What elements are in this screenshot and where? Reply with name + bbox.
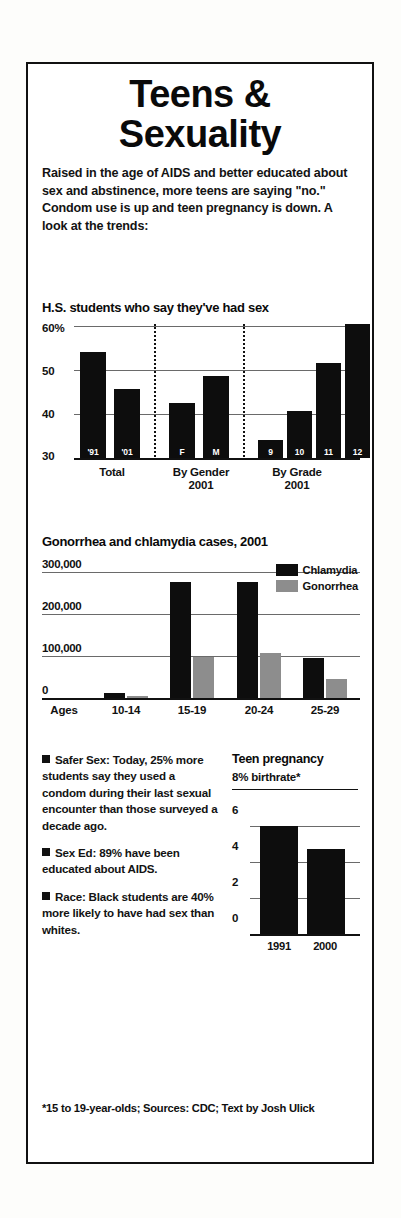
- chart1-group-grade-year: 2001: [285, 479, 310, 491]
- chart1-baseline: [74, 458, 360, 460]
- bullet-race-lead: Race:: [55, 890, 86, 903]
- legend-label-gonorrhea: Gonorrhea: [303, 580, 358, 592]
- chart3-ytick-4: 4: [232, 840, 238, 852]
- bullet-safer-sex: Safer Sex: Today, 25% more students say …: [42, 752, 218, 834]
- footnote: *15 to 19-year-olds; Sources: CDC; Text …: [42, 1102, 358, 1114]
- bar-grade-11: 11: [316, 363, 341, 458]
- chart3-ytick-0: 0: [232, 912, 238, 924]
- bar-label-12: 12: [345, 447, 370, 457]
- bar-chlamydia-15-19: [170, 582, 191, 698]
- infographic-panel: Teens & Sexuality Raised in the age of A…: [26, 62, 374, 1164]
- chart3-title: Teen pregnancy: [232, 752, 364, 766]
- intro-paragraph: Raised in the age of AIDS and better edu…: [42, 165, 358, 235]
- chart3-rule: [232, 789, 358, 790]
- chart3-ytick-2: 2: [232, 876, 238, 888]
- page-title: Teens & Sexuality: [42, 74, 358, 154]
- bar-gonorrhea-25-29: [326, 679, 347, 698]
- chart3-xtick-1991: 1991: [254, 940, 304, 952]
- chart1-group-gender-label: By Gender: [173, 466, 229, 478]
- bar-gender-f: F: [169, 403, 195, 458]
- chart3-subtitle: 8% birthrate*: [232, 771, 364, 786]
- legend-label-chlamydia: Chlamydia: [303, 564, 358, 576]
- chart3-baseline: [250, 934, 360, 936]
- bar-label-10: 10: [287, 447, 312, 457]
- chart3-plot: [250, 810, 360, 934]
- chart2-xaxis-title: Ages: [42, 704, 86, 716]
- chart1-group-total: Total: [74, 466, 150, 479]
- chart1-divider-1: [154, 324, 156, 460]
- chart1-group-gender: By Gender 2001: [160, 466, 242, 492]
- legend-item-gonorrhea: Gonorrhea: [276, 580, 358, 592]
- chart2-xtick-20-24: 20-24: [225, 704, 293, 716]
- infographic-page: Teens & Sexuality Raised in the age of A…: [0, 0, 401, 1218]
- legend-swatch-gonorrhea: [276, 580, 298, 592]
- bullet-sex-ed: Sex Ed: 89% have been educated about AID…: [42, 845, 218, 878]
- chart2-xtick-15-19: 15-19: [158, 704, 226, 716]
- bottom-section: Safer Sex: Today, 25% more students say …: [42, 752, 362, 1042]
- bar-gender-m: M: [203, 376, 229, 458]
- chart1-ytick-40: 40: [42, 408, 54, 420]
- bullet-race: Race: Black students are 40% more likely…: [42, 889, 218, 938]
- bar-label-2001: '01: [114, 447, 140, 457]
- bar-pregnancy-2000: [307, 849, 345, 934]
- chart1-title: H.S. students who say they've had sex: [42, 300, 269, 315]
- chart2-legend: Chlamydia Gonorrhea: [276, 564, 358, 596]
- chart-hs-students: H.S. students who say they've had sex 60…: [42, 300, 360, 512]
- chart1-group-gender-year: 2001: [189, 479, 214, 491]
- chart2-xtick-25-29: 25-29: [291, 704, 359, 716]
- bullet-list: Safer Sex: Today, 25% more students say …: [42, 752, 218, 949]
- bar-label-1991: '91: [80, 447, 106, 457]
- chart3-ytick-6: 6: [232, 804, 238, 816]
- chart1-group-total-label: Total: [99, 466, 125, 478]
- bullet-sex-ed-lead: Sex Ed:: [55, 846, 96, 859]
- bar-label-f: F: [169, 447, 195, 457]
- title-line-1: Teens &: [129, 73, 271, 115]
- bar-pregnancy-1991: [260, 826, 298, 934]
- bar-total-2001: '01: [114, 389, 140, 458]
- bar-grade-10: 10: [287, 411, 312, 458]
- bar-chlamydia-20-24: [237, 582, 258, 698]
- chart1-ytick-60: 60%: [42, 322, 64, 334]
- bar-grade-9: 9: [258, 440, 283, 458]
- chart3-xtick-2000: 2000: [300, 940, 350, 952]
- chart1-divider-2: [243, 324, 245, 460]
- bullet-safer-sex-lead: Safer Sex:: [55, 753, 110, 766]
- chart1-group-grade: By Grade 2001: [255, 466, 339, 492]
- black-square-bullet-icon: [42, 892, 50, 900]
- bar-label-11: 11: [316, 447, 341, 457]
- bar-grade-12: 12: [345, 324, 370, 458]
- chart1-ytick-50: 50: [42, 365, 54, 377]
- chart-teen-pregnancy: Teen pregnancy 8% birthrate* 6 4 2 0: [232, 752, 364, 984]
- chart2-gridline-200000: [42, 614, 360, 615]
- chart-std-cases: Gonorrhea and chlamydia cases, 2001 300,…: [42, 534, 360, 734]
- black-square-bullet-icon: [42, 755, 50, 763]
- chart1-gridline-60: [74, 326, 360, 327]
- chart2-baseline: [42, 698, 360, 700]
- black-square-bullet-icon: [42, 848, 50, 856]
- chart1-group-grade-label: By Grade: [272, 466, 322, 478]
- legend-swatch-chlamydia: [276, 564, 298, 576]
- bar-gonorrhea-20-24: [260, 653, 281, 698]
- title-line-2: Sexuality: [42, 114, 358, 154]
- bar-gonorrhea-15-19: [193, 657, 214, 698]
- chart2-title: Gonorrhea and chlamydia cases, 2001: [42, 534, 268, 549]
- bar-chlamydia-25-29: [303, 658, 324, 698]
- bar-label-9: 9: [258, 447, 283, 457]
- bar-label-m: M: [203, 447, 229, 457]
- bar-total-1991: '91: [80, 352, 106, 458]
- chart1-plot: '91 '01 F M 9: [74, 326, 360, 458]
- panel-inner: Teens & Sexuality Raised in the age of A…: [28, 64, 372, 1162]
- chart1-ytick-30: 30: [42, 450, 54, 462]
- chart2-xtick-10-14: 10-14: [92, 704, 160, 716]
- legend-item-chlamydia: Chlamydia: [276, 564, 358, 576]
